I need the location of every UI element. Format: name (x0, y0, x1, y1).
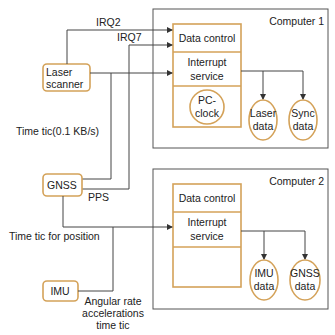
imu-output-line3: time tic (96, 319, 129, 331)
laser-data-line2: data (253, 120, 274, 132)
imu-output-line1: Angular rate (84, 295, 141, 307)
gnss-data-line1: GNSS (290, 267, 320, 279)
imu-output-line2: accelerations (82, 307, 144, 319)
computer-2-interrupt-line2: service (190, 230, 223, 242)
irq2-label: IRQ2 (96, 16, 121, 28)
time-tic-position-label: Time tic for position (9, 230, 100, 242)
computer-1-data-control: Data control (179, 32, 236, 44)
laser-scanner-line1: Laser (46, 66, 73, 78)
computer-1-interrupt-line1: Interrupt (187, 56, 226, 68)
sync-data-line1: Sync (291, 107, 314, 119)
imu-data-line1: IMU (254, 267, 273, 279)
pc-clock-line2: clock (195, 107, 220, 119)
gnss-data-line2: data (295, 280, 316, 292)
computer-2-data-control: Data control (179, 192, 236, 204)
computer-2-title: Computer 2 (269, 175, 324, 187)
gnss-label: GNSS (47, 179, 77, 191)
laser-data-line1: Laser (250, 107, 277, 119)
computer-2-interrupt-line1: Interrupt (187, 216, 226, 228)
pps-label: PPS (88, 191, 109, 203)
imu-label: IMU (50, 285, 69, 297)
time-tic-label: Time tic(0.1 KB/s) (16, 125, 99, 137)
computer-1-title: Computer 1 (269, 15, 324, 27)
laser-scanner-line2: scanner (46, 78, 84, 90)
irq7-label: IRQ7 (117, 31, 142, 43)
sync-data-line2: data (293, 120, 314, 132)
pc-clock-line1: PC- (198, 94, 217, 106)
computer-1-interrupt-line2: service (190, 70, 223, 82)
system-architecture-diagram: Computer 1 Data control Interrupt servic… (0, 0, 335, 335)
imu-data-line2: data (254, 280, 275, 292)
